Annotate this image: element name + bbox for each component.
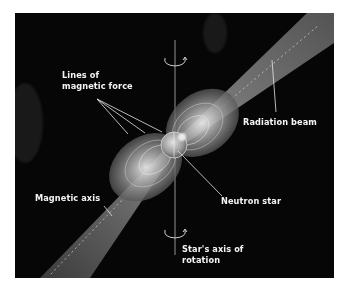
diagram-artwork [15,13,334,278]
label-magnetic-axis: Magnetic axis [35,193,100,204]
neutron-star [161,132,187,158]
label-radiation-beam: Radiation beam [243,117,317,128]
leader-lines-of-force-3 [97,99,162,132]
leader-lines-of-force-1 [97,99,128,134]
rotation-arrow-bottom-icon [165,229,187,238]
label-neutron-star: Neutron star [221,196,281,207]
leader-lines-of-force-2 [97,99,145,133]
leader-neutron-star [178,151,222,196]
rotation-arrow-top-icon [165,57,187,66]
label-star-axis-of-rotation: Star's axis of rotation [182,244,244,266]
label-lines-of-magnetic-force: Lines of magnetic force [62,70,133,92]
pulsar-diagram: Lines of magnetic force Radiation beam M… [15,13,334,278]
